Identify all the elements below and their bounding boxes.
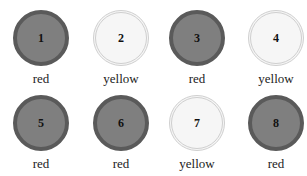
- ball-label: yellow: [81, 71, 161, 87]
- ball-circle: 5: [13, 95, 69, 151]
- ball-number: 6: [118, 116, 124, 131]
- ball-item-3: 3 red: [157, 10, 237, 87]
- ball-number: 8: [273, 116, 279, 131]
- ball-label: yellow: [236, 71, 307, 87]
- ball-item-5: 5 red: [1, 95, 81, 172]
- ball-circle: 3: [169, 10, 225, 66]
- ball-label: red: [1, 71, 81, 87]
- ball-label: red: [1, 156, 81, 172]
- ball-label: red: [157, 71, 237, 87]
- ball-number: 5: [38, 116, 44, 131]
- ball-circle: 1: [13, 10, 69, 66]
- ball-item-7: 7 yellow: [157, 95, 237, 172]
- ball-item-2: 2 yellow: [81, 10, 161, 87]
- ball-number: 2: [118, 31, 124, 46]
- ball-item-6: 6 red: [81, 95, 161, 172]
- ball-label: red: [236, 156, 307, 172]
- ball-circle: 8: [248, 95, 304, 151]
- ball-number: 3: [194, 31, 200, 46]
- ball-circle: 6: [93, 95, 149, 151]
- ball-number: 4: [273, 31, 279, 46]
- ball-label: red: [81, 156, 161, 172]
- ball-item-8: 8 red: [236, 95, 307, 172]
- ball-circle: 7: [169, 95, 225, 151]
- ball-circle: 2: [93, 10, 149, 66]
- ball-item-1: 1 red: [1, 10, 81, 87]
- ball-circle: 4: [248, 10, 304, 66]
- ball-item-4: 4 yellow: [236, 10, 307, 87]
- ball-number: 7: [194, 116, 200, 131]
- ball-label: yellow: [157, 156, 237, 172]
- ball-number: 1: [38, 31, 44, 46]
